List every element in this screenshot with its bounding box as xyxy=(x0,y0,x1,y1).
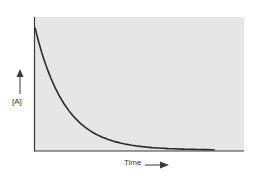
x-axis-label: Time xyxy=(124,158,141,167)
y-axis-label: [A] xyxy=(12,97,22,106)
plot-area xyxy=(34,17,244,151)
x-arrow-icon xyxy=(145,162,169,169)
decay-chart xyxy=(0,0,260,182)
y-arrow-icon xyxy=(17,69,24,94)
